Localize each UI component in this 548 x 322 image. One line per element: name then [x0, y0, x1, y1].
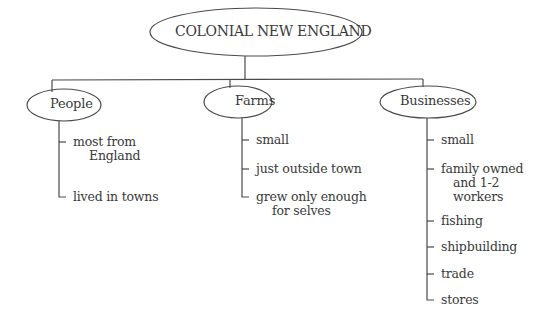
people-item: most from England: [73, 135, 140, 163]
farms-item: small: [256, 133, 289, 147]
businesses-item: fishing: [441, 214, 483, 228]
farms-item: grew only enough for selves: [256, 190, 367, 218]
item-text-line: most from: [73, 134, 136, 149]
item-text-line: fishing: [441, 213, 483, 228]
people-item: lived in towns: [73, 190, 158, 204]
branch-farms-label: Farms: [235, 94, 275, 108]
item-text-line: and 1-2: [441, 176, 523, 190]
root-node-label: COLONIAL NEW ENGLAND: [175, 24, 371, 38]
branch-businesses-label: Businesses: [400, 94, 471, 108]
businesses-item: stores: [441, 293, 479, 307]
item-text-line: stores: [441, 292, 479, 307]
farms-item: just outside town: [256, 162, 362, 176]
item-text-line: for selves: [256, 204, 367, 218]
businesses-item: family owned and 1-2 workers: [441, 162, 523, 204]
branch-people-label: People: [50, 97, 93, 111]
item-text-line: small: [256, 132, 289, 147]
item-text-line: small: [441, 132, 474, 147]
businesses-item: small: [441, 133, 474, 147]
item-text-line: grew only enough: [256, 189, 367, 204]
businesses-item: trade: [441, 267, 474, 281]
item-text-line: trade: [441, 266, 474, 281]
item-text-line: shipbuilding: [441, 239, 517, 254]
item-text-line: family owned: [441, 161, 523, 176]
item-text-line: just outside town: [256, 161, 362, 176]
item-text-line: workers: [441, 190, 523, 204]
businesses-item: shipbuilding: [441, 240, 517, 254]
item-text-line: England: [73, 149, 140, 163]
item-text-line: lived in towns: [73, 189, 158, 204]
